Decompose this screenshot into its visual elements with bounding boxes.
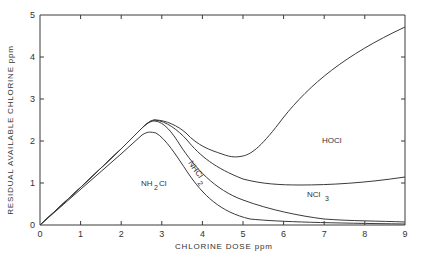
svg-text:9: 9 bbox=[402, 229, 407, 239]
svg-text:2: 2 bbox=[119, 229, 124, 239]
svg-text:5: 5 bbox=[30, 10, 35, 20]
y-ticks bbox=[40, 57, 405, 183]
svg-text:7: 7 bbox=[322, 229, 327, 239]
svg-text:0: 0 bbox=[30, 220, 35, 230]
svg-text:2: 2 bbox=[30, 136, 35, 146]
svg-text:3: 3 bbox=[30, 94, 35, 104]
curve-ncl3 bbox=[40, 120, 405, 225]
svg-text:2: 2 bbox=[154, 184, 158, 191]
svg-text:4: 4 bbox=[200, 229, 205, 239]
curves bbox=[40, 27, 405, 225]
svg-text:0: 0 bbox=[37, 229, 42, 239]
svg-text:NH: NH bbox=[141, 179, 153, 188]
curve-nhcl2 bbox=[40, 121, 405, 225]
label-ncl3: NCl 3 bbox=[307, 190, 329, 202]
label-nh2cl: NH 2 Cl bbox=[141, 179, 167, 191]
x-ticks bbox=[81, 15, 365, 225]
svg-text:NHCl: NHCl bbox=[186, 159, 204, 180]
svg-text:6: 6 bbox=[281, 229, 286, 239]
svg-text:1: 1 bbox=[30, 178, 35, 188]
curve-nh2cl bbox=[40, 132, 405, 225]
chart-canvas: 0 1 2 3 4 5 6 7 8 9 0 1 2 3 4 5 CHLORINE… bbox=[0, 0, 424, 259]
label-hocl: HOCl bbox=[322, 136, 342, 145]
y-axis-label: RESIDUAL AVAILABLE CHLORINE ppm bbox=[6, 45, 15, 215]
svg-text:5: 5 bbox=[240, 229, 245, 239]
svg-text:NCl: NCl bbox=[307, 190, 321, 199]
svg-text:3: 3 bbox=[325, 195, 329, 202]
svg-text:4: 4 bbox=[30, 52, 35, 62]
x-axis-label: CHLORINE DOSE ppm bbox=[175, 242, 273, 251]
x-tick-labels: 0 1 2 3 4 5 6 7 8 9 bbox=[37, 229, 407, 239]
plot-frame bbox=[40, 15, 405, 225]
svg-text:8: 8 bbox=[362, 229, 367, 239]
y-tick-labels: 0 1 2 3 4 5 bbox=[30, 10, 35, 230]
svg-text:Cl: Cl bbox=[159, 179, 167, 188]
svg-text:3: 3 bbox=[159, 229, 164, 239]
svg-text:1: 1 bbox=[78, 229, 83, 239]
curve-hocl bbox=[40, 27, 405, 225]
